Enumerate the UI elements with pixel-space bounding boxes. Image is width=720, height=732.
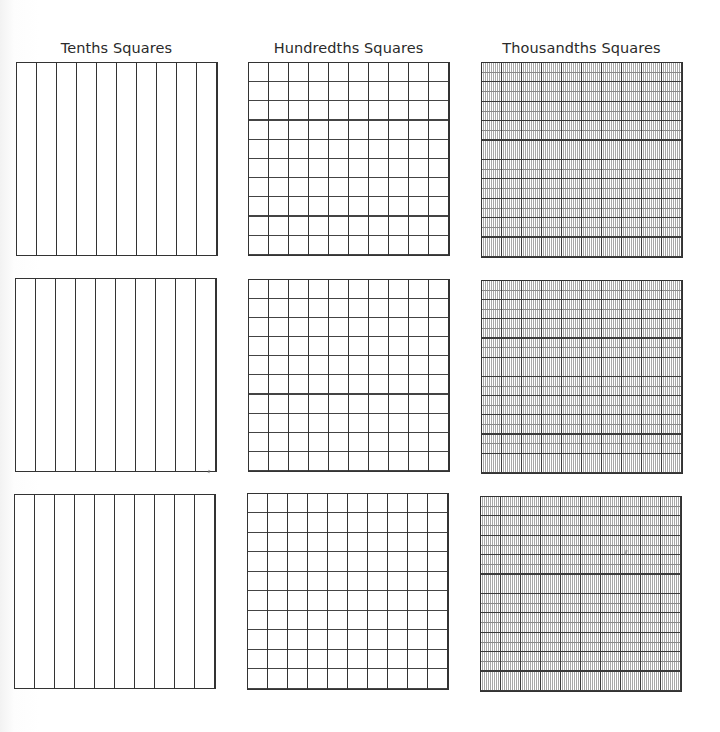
hundredths-squares-title: Hundredths Squares [248,40,449,60]
tenths-square-3 [14,494,216,689]
scan-mark [208,470,211,473]
tenths-square-1 [16,62,218,256]
hundredths-square-3 [247,493,449,690]
tenths-square-2 [15,278,217,472]
thousandths-square-1 [481,62,683,258]
tenths-squares-title: Tenths Squares [16,40,217,60]
thousandths-square-2 [481,280,683,474]
hundredths-square-1 [248,62,450,256]
thousandths-square-3 [480,496,682,692]
thousandths-squares-title: Thousandths Squares [481,40,682,60]
hundredths-square-2 [248,279,450,472]
